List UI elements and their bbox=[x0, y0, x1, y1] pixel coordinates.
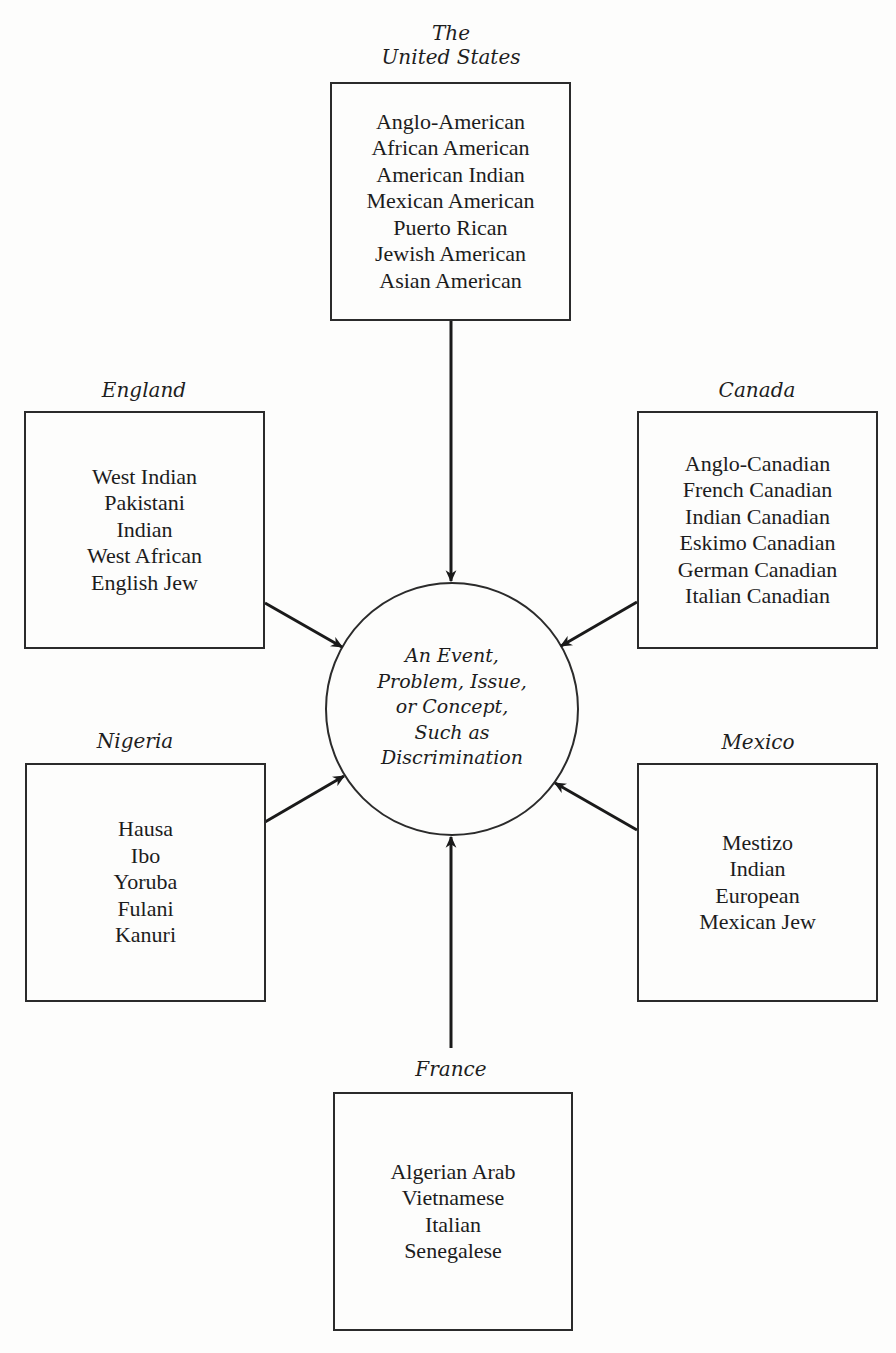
group-list: Hausa Ibo Yoruba Fulani Kanuri bbox=[114, 816, 178, 949]
group-item: Vietnamese bbox=[390, 1185, 515, 1212]
group-item: Pakistani bbox=[87, 490, 202, 517]
group-box-united-states: Anglo-American African American American… bbox=[330, 82, 571, 321]
group-item: Mexican American bbox=[367, 188, 535, 215]
group-item: Italian bbox=[390, 1212, 515, 1239]
group-item: Asian American bbox=[367, 268, 535, 295]
group-list: Anglo-American African American American… bbox=[367, 109, 535, 295]
group-item: Eskimo Canadian bbox=[678, 530, 837, 557]
group-item: Indian Canadian bbox=[678, 504, 837, 531]
group-item: Jewish American bbox=[367, 241, 535, 268]
group-list: Algerian Arab Vietnamese Italian Senegal… bbox=[390, 1159, 515, 1265]
group-item: Yoruba bbox=[114, 869, 178, 896]
arrow-england-to-center bbox=[265, 603, 342, 647]
group-list: West Indian Pakistani Indian West Africa… bbox=[87, 464, 202, 597]
group-box-mexico: Mestizo Indian European Mexican Jew bbox=[637, 763, 878, 1002]
group-item: Anglo-Canadian bbox=[678, 451, 837, 478]
group-item: French Canadian bbox=[678, 477, 837, 504]
diagram-canvas: An Event, Problem, Issue, or Concept, Su… bbox=[0, 0, 896, 1353]
group-item: Italian Canadian bbox=[678, 583, 837, 610]
group-item: Hausa bbox=[114, 816, 178, 843]
center-line: Problem, Issue, bbox=[327, 669, 577, 695]
group-item: Mestizo bbox=[699, 830, 816, 857]
center-line: Such as bbox=[327, 720, 577, 746]
group-item: Ibo bbox=[114, 843, 178, 870]
label-line: The bbox=[331, 21, 571, 45]
country-label-canada: Canada bbox=[637, 378, 877, 402]
group-box-france: Algerian Arab Vietnamese Italian Senegal… bbox=[333, 1092, 573, 1331]
group-item: European bbox=[699, 883, 816, 910]
label-line: United States bbox=[331, 45, 571, 69]
arrow-canada-to-center bbox=[561, 602, 637, 646]
group-item: Indian bbox=[699, 856, 816, 883]
group-box-nigeria: Hausa Ibo Yoruba Fulani Kanuri bbox=[25, 763, 266, 1002]
center-line: or Concept, bbox=[327, 694, 577, 720]
group-item: Algerian Arab bbox=[390, 1159, 515, 1186]
arrow-nigeria-to-center bbox=[265, 776, 344, 822]
group-item: Indian bbox=[87, 517, 202, 544]
country-label-nigeria: Nigeria bbox=[15, 729, 255, 753]
group-item: African American bbox=[367, 135, 535, 162]
center-concept-text: An Event, Problem, Issue, or Concept, Su… bbox=[327, 643, 577, 771]
group-item: English Jew bbox=[87, 570, 202, 597]
country-label-mexico: Mexico bbox=[638, 730, 878, 754]
arrow-mexico-to-center bbox=[555, 783, 637, 830]
group-item: Anglo-American bbox=[367, 109, 535, 136]
center-line: An Event, bbox=[327, 643, 577, 669]
group-list: Mestizo Indian European Mexican Jew bbox=[699, 830, 816, 936]
group-box-canada: Anglo-Canadian French Canadian Indian Ca… bbox=[637, 411, 878, 649]
group-item: West African bbox=[87, 543, 202, 570]
group-item: West Indian bbox=[87, 464, 202, 491]
group-item: Mexican Jew bbox=[699, 909, 816, 936]
group-item: American Indian bbox=[367, 162, 535, 189]
country-label-england: England bbox=[24, 378, 264, 402]
group-item: German Canadian bbox=[678, 557, 837, 584]
group-item: Puerto Rican bbox=[367, 215, 535, 242]
group-list: Anglo-Canadian French Canadian Indian Ca… bbox=[678, 451, 837, 610]
group-item: Senegalese bbox=[390, 1238, 515, 1265]
group-item: Kanuri bbox=[114, 922, 178, 949]
country-label-united-states: The United States bbox=[331, 21, 571, 69]
group-item: Fulani bbox=[114, 896, 178, 923]
center-line: Discrimination bbox=[327, 745, 577, 771]
group-box-england: West Indian Pakistani Indian West Africa… bbox=[24, 411, 265, 649]
country-label-france: France bbox=[331, 1057, 571, 1081]
